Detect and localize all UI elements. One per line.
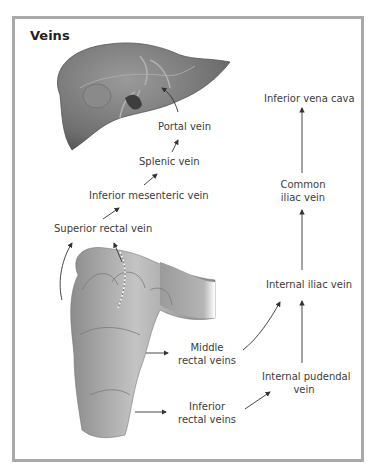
arrow-splenic-to-portal [172,140,178,152]
label-internal-iliac-vein: Internal iliac vein [266,278,352,291]
diagram-title: Veins [30,28,70,43]
label-inferior-vena-cava: Inferior vena cava [264,92,355,105]
label-internal-pudendal-vein: Internal pudendal vein [262,370,346,396]
label-superior-rectal-vein: Superior rectal vein [54,222,152,235]
label-common-iliac-vein: Common iliac vein [278,178,328,204]
label-splenic-vein: Splenic vein [139,155,200,168]
arrow-superior-rectal-to-imv [103,208,119,219]
label-inferior-rectal-veins: Inferior rectal veins [176,400,238,426]
arrow-imv-to-splenic [144,174,157,185]
label-portal-vein: Portal vein [158,120,211,133]
arrow-rectum-to-superior-rectal-left [60,243,72,300]
liver-illustration [57,43,230,150]
label-middle-rectal-veins: Middle rectal veins [176,341,238,367]
arrow-middle-rectal-to-internal-iliac [243,302,280,350]
label-inferior-mesenteric-vein: Inferior mesenteric vein [89,189,209,202]
